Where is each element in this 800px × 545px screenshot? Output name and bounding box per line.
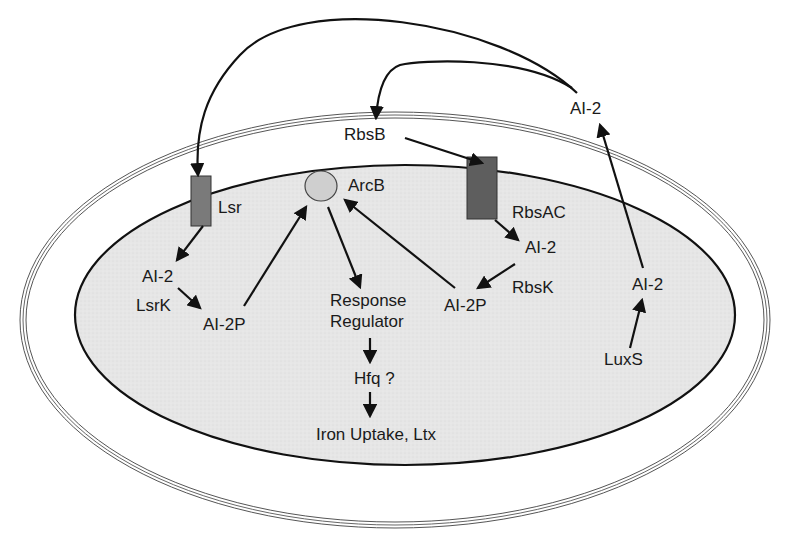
label-arcb: ArcB bbox=[348, 176, 385, 195]
label-rbsac: RbsAC bbox=[512, 203, 566, 222]
rbsac-transporter bbox=[467, 157, 497, 219]
label-iron-uptake: Iron Uptake, Ltx bbox=[316, 425, 437, 444]
label-rbsb: RbsB bbox=[344, 125, 386, 144]
label-response-regulator-2: Regulator bbox=[330, 312, 404, 331]
lsr-transporter bbox=[191, 176, 211, 226]
label-lsr: Lsr bbox=[218, 198, 242, 217]
label-luxs: LuxS bbox=[604, 350, 643, 369]
cytoplasm bbox=[75, 165, 735, 465]
label-ai2-luxs: AI-2 bbox=[632, 275, 663, 294]
label-ai2-lsr: AI-2 bbox=[142, 267, 173, 286]
quorum-sensing-diagram: AI-2 RbsB Lsr ArcB RbsAC AI-2 RbsK AI-2P… bbox=[0, 0, 800, 545]
label-response-regulator-1: Response bbox=[330, 291, 407, 310]
label-ai2-external: AI-2 bbox=[570, 99, 601, 118]
label-ai2p-lsr: AI-2P bbox=[203, 315, 246, 334]
arcb-sensor bbox=[305, 171, 337, 201]
label-ai2-rbs: AI-2 bbox=[525, 238, 556, 257]
label-lsrk: LsrK bbox=[136, 296, 172, 315]
label-rbsk: RbsK bbox=[512, 278, 554, 297]
label-ai2p-rbs: AI-2P bbox=[444, 296, 487, 315]
label-hfq: Hfq ? bbox=[354, 369, 395, 388]
